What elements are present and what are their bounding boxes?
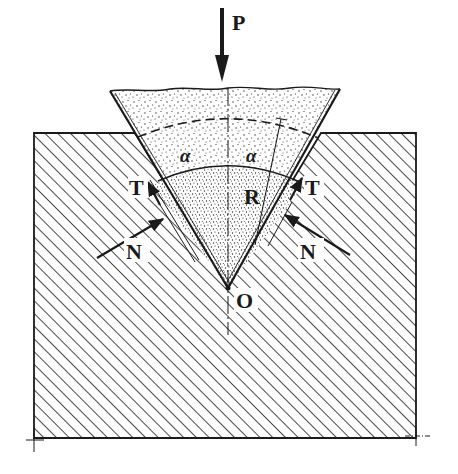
label-normal-right: N xyxy=(300,239,316,264)
wedge-diagram: P R O T T N N α α xyxy=(0,0,458,474)
label-normal-left: N xyxy=(126,239,142,264)
label-angle-left: α xyxy=(180,145,191,166)
load-arrow xyxy=(215,8,229,82)
label-angle-right: α xyxy=(246,145,257,166)
apex-point xyxy=(226,286,231,291)
label-friction-right: T xyxy=(305,175,320,200)
label-resultant: R xyxy=(244,184,261,209)
label-apex: O xyxy=(236,288,253,313)
label-load: P xyxy=(232,10,245,35)
label-friction-left: T xyxy=(129,175,144,200)
